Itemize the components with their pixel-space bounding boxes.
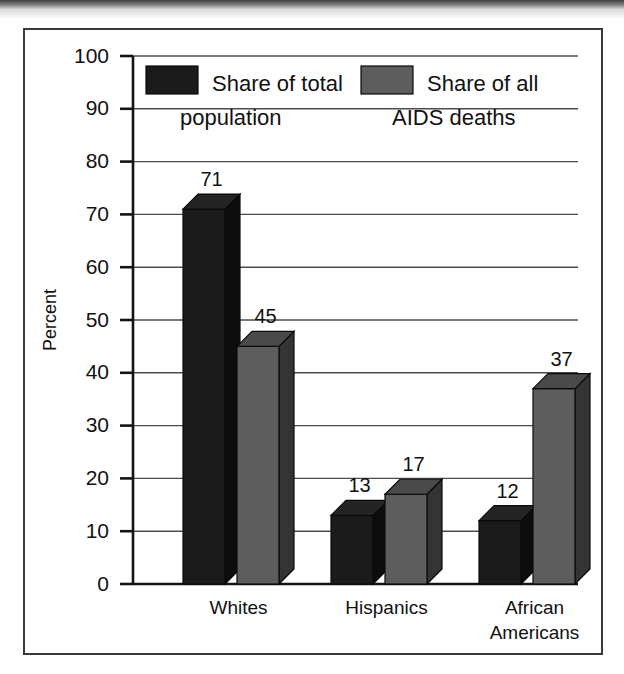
scanned-page: 0102030405060708090100 Percent 714513171… (0, 0, 624, 674)
scan-artifact-fade (0, 10, 624, 19)
chart-frame-border (23, 28, 603, 655)
